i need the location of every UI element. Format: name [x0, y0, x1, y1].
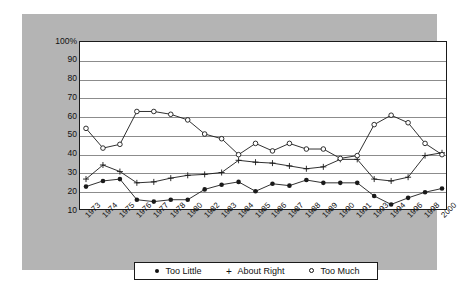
y-axis-tick-label: 70 — [68, 93, 77, 102]
y-axis-tick-label: 80 — [68, 74, 77, 83]
plot-area — [79, 41, 447, 210]
data-point-marker — [355, 181, 360, 186]
y-axis-tick-label: 100% — [55, 37, 77, 46]
legend-item-about-right: +About Right — [224, 266, 284, 276]
y-axis-tick-label: 30 — [68, 168, 77, 177]
y-axis: 100%908070605040302010 — [44, 41, 77, 210]
data-point-marker — [236, 157, 242, 163]
data-point-marker — [303, 166, 309, 172]
data-point-marker — [185, 172, 191, 178]
legend-item-too-little: Too Little — [152, 266, 201, 276]
data-point-marker — [372, 122, 377, 127]
data-point-marker — [406, 196, 411, 201]
series-too-much — [84, 109, 445, 161]
data-point-marker — [372, 194, 377, 199]
data-point-marker — [270, 149, 275, 154]
data-point-marker — [320, 164, 326, 170]
data-point-marker — [253, 159, 259, 165]
data-point-marker — [286, 163, 292, 169]
data-point-marker — [135, 109, 140, 114]
y-axis-tick-label: 90 — [68, 55, 77, 64]
data-point-marker — [202, 132, 207, 137]
data-point-marker — [219, 182, 224, 187]
data-point-marker — [321, 147, 326, 152]
data-point-marker — [101, 146, 106, 151]
data-point-marker — [134, 180, 140, 186]
data-point-marker — [253, 141, 258, 146]
data-point-marker — [219, 136, 224, 141]
data-point-marker — [202, 187, 207, 192]
y-axis-tick-label: 50 — [68, 130, 77, 139]
chart-legend: Too Little+About RightToo Much — [134, 262, 378, 280]
data-point-marker — [287, 141, 292, 146]
data-point-marker — [151, 179, 157, 185]
data-point-marker — [355, 153, 360, 158]
y-axis-tick-label: 60 — [68, 112, 77, 121]
data-point-marker — [236, 180, 241, 185]
chart-panel: 100%908070605040302010 19731974197519761… — [22, 14, 437, 270]
data-point-marker — [253, 189, 258, 194]
screenshot-root: 100%908070605040302010 19731974197519761… — [0, 0, 460, 284]
plus-icon: + — [224, 267, 233, 276]
data-point-marker — [168, 112, 173, 117]
filled-circle-icon — [152, 267, 161, 276]
data-point-marker — [338, 181, 343, 186]
data-point-marker — [202, 171, 208, 177]
legend-item-too-much: Too Much — [307, 266, 359, 276]
data-point-marker — [338, 156, 343, 161]
data-point-marker — [118, 177, 123, 182]
data-point-marker — [152, 109, 157, 114]
y-axis-tick-label: 10 — [68, 206, 77, 215]
x-axis: 1973197419751976197719781980198219831984… — [79, 211, 447, 257]
data-point-marker — [185, 197, 190, 202]
filled-circle-glyph — [155, 269, 159, 273]
data-point-marker — [270, 181, 275, 186]
data-point-marker — [423, 141, 428, 146]
data-point-marker — [236, 152, 241, 157]
data-point-marker — [84, 126, 89, 131]
data-point-marker — [168, 175, 174, 181]
data-point-marker — [168, 197, 173, 202]
data-point-marker — [117, 169, 123, 175]
data-point-marker — [135, 197, 140, 202]
data-point-marker — [406, 120, 411, 125]
data-point-marker — [118, 142, 123, 147]
open-circle-icon — [307, 267, 316, 276]
data-point-marker — [304, 178, 309, 183]
data-series-layer — [80, 42, 448, 211]
series-line — [86, 153, 442, 183]
legend-label: About Right — [237, 266, 284, 276]
legend-label: Too Little — [165, 266, 201, 276]
data-point-marker — [389, 113, 394, 118]
data-point-marker — [423, 190, 428, 195]
plus-glyph: + — [224, 267, 233, 276]
data-point-marker — [287, 183, 292, 188]
series-about-right — [83, 150, 445, 186]
data-point-marker — [84, 184, 89, 189]
data-point-marker — [152, 199, 157, 204]
data-point-marker — [388, 178, 394, 184]
data-point-marker — [440, 186, 445, 191]
open-circle-glyph — [309, 268, 314, 273]
y-axis-tick-label: 40 — [68, 149, 77, 158]
data-point-marker — [101, 179, 106, 184]
data-point-marker — [321, 181, 326, 186]
data-point-marker — [269, 160, 275, 166]
data-point-marker — [185, 118, 190, 123]
y-axis-tick-label: 20 — [68, 187, 77, 196]
legend-label: Too Much — [320, 266, 359, 276]
series-line — [86, 111, 442, 158]
data-point-marker — [219, 170, 225, 176]
data-point-marker — [440, 152, 445, 157]
data-point-marker — [304, 147, 309, 152]
